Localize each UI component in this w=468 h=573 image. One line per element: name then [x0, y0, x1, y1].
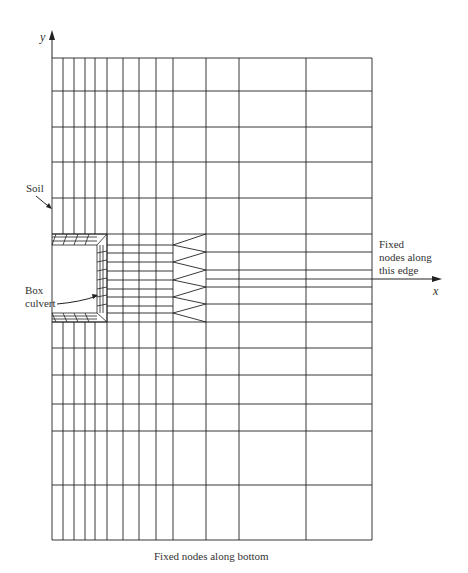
culvert-arrow-icon: [57, 296, 97, 304]
transition-element-edge: [173, 262, 206, 270]
culvert-slab-division: [63, 234, 67, 245]
culvert-corner-line: [97, 234, 107, 245]
transition-element-edge: [173, 252, 206, 262]
culvert-label-line2: culvert: [25, 297, 56, 309]
fixed-edge-label-line2: nodes along: [379, 251, 432, 263]
culvert-corner-line: [97, 313, 107, 322]
y-axis-arrow-icon: [49, 30, 55, 40]
transition-element-edge: [173, 287, 206, 297]
soil-label: Soil: [26, 182, 44, 194]
culvert-wall-division: [97, 260, 107, 262]
transition-element-edge: [173, 270, 206, 280]
culvert-wall-division: [97, 287, 107, 289]
transition-element-edge: [173, 280, 206, 287]
fixed-edge-label-line3: this edge: [379, 264, 418, 276]
culvert-slab-division: [85, 234, 89, 245]
soil-arrowhead-icon: [46, 203, 52, 209]
culvert-slab-division: [52, 313, 56, 322]
transition-element-edge: [173, 297, 206, 304]
culvert-slab-division: [52, 234, 56, 245]
x-axis-arrow-icon: [432, 276, 442, 282]
y-axis-label: y: [40, 30, 45, 45]
transition-element-edge: [173, 245, 206, 252]
transition-element-edge: [173, 304, 206, 313]
culvert-wall-division: [97, 251, 107, 253]
culvert-slab-division: [63, 313, 67, 322]
culvert-wall-division: [97, 278, 107, 280]
fixed-bottom-label: Fixed nodes along bottom: [154, 550, 269, 562]
culvert-slab-division: [85, 313, 89, 322]
x-axis-label: x: [433, 284, 438, 299]
culvert-slab-division: [74, 234, 78, 245]
culvert-wall-division: [97, 295, 107, 297]
culvert-wall-division: [97, 269, 107, 271]
mesh-diagram: [0, 0, 468, 573]
culvert-slab-division: [74, 313, 78, 322]
culvert-label-line1: Box: [25, 284, 43, 296]
fixed-edge-label-line1: Fixed: [379, 238, 404, 250]
transition-element-edge: [173, 234, 206, 245]
culvert-wall-division: [97, 304, 107, 306]
transition-element-edge: [173, 313, 206, 322]
